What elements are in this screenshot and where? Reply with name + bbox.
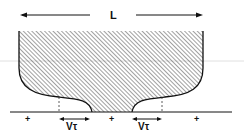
hatched-region [19, 31, 203, 112]
diagram-canvas: L + + + Vτ Vτ [0, 0, 244, 132]
velocity-label-left: Vτ [66, 121, 78, 132]
length-label: L [110, 9, 117, 21]
velocity-label-right: Vτ [138, 121, 150, 132]
charge-mark-left: + [25, 114, 30, 124]
charge-mark-right: + [194, 114, 199, 124]
charge-mark-center: + [109, 114, 114, 124]
